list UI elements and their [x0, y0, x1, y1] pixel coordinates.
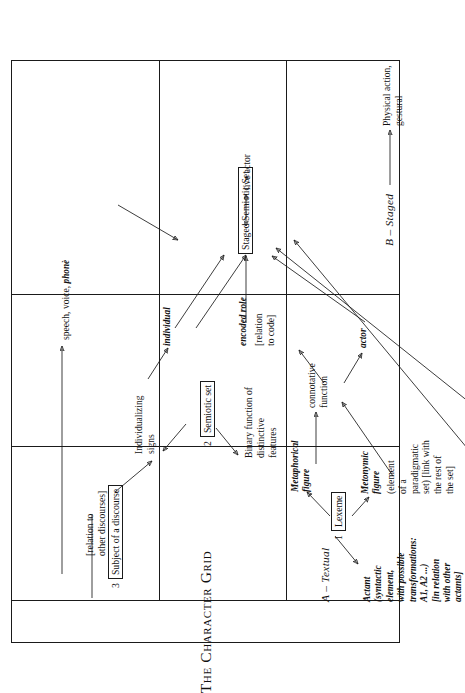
- node-speech: speech, voice, phonè: [48, 260, 72, 340]
- node-actant: Actant (syntactic element, with possible…: [362, 537, 465, 602]
- box-lexeme: 1Lexeme: [331, 492, 346, 540]
- page-title: The Character Grid: [11, 601, 400, 643]
- node-relation-discourses: [relation to other discourses]: [84, 491, 108, 556]
- node-speech-phone: phonè: [61, 260, 71, 284]
- node-encoded-role: encoded role: [238, 297, 249, 346]
- grid-divider-col-1: [12, 446, 399, 447]
- box-semiotic-set: 2Semiotic set: [200, 381, 215, 446]
- box-semiotic-set-number: 2: [202, 441, 213, 446]
- node-metaphorical-figure: Metaphorical figure: [290, 440, 313, 492]
- node-actor: actor: [358, 328, 369, 348]
- node-individualizing-signs: Individualizing signs: [133, 395, 157, 454]
- node-metonymic-sub: (element of a paradigmatic set) [link wi…: [385, 440, 456, 494]
- grid-row-divider-2: [286, 61, 287, 601]
- box-subject-discourse-label[interactable]: Subject of a discourse: [108, 485, 123, 579]
- node-binary-function: Binary function of distinctive features: [243, 387, 278, 458]
- grid-row-divider-1: [159, 61, 160, 601]
- node-live-actor: live actor: [241, 154, 253, 190]
- box-lexeme-number: 1: [333, 535, 344, 540]
- node-individual: individual: [162, 307, 173, 346]
- section-a-label: A – Textual: [318, 547, 332, 602]
- node-speech-text: speech, voice,: [60, 284, 71, 340]
- node-metonymic-figure: Metonymic figure: [360, 451, 383, 494]
- box-semiotic-set-label[interactable]: Semiotic set: [200, 381, 215, 437]
- box-subject-discourse-number: 3: [110, 583, 121, 588]
- node-connotative-function: connotative function: [306, 363, 330, 408]
- box-subject-discourse: 3Subject of a discourse: [108, 485, 123, 588]
- section-b-label: B – Staged: [382, 194, 396, 246]
- node-encoded-role-sub: [relation to code]: [253, 314, 277, 347]
- box-lexeme-label[interactable]: Lexeme: [331, 492, 346, 532]
- node-physical-action: Physical action, gestural: [381, 65, 405, 126]
